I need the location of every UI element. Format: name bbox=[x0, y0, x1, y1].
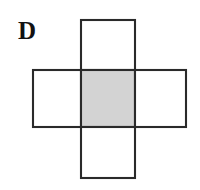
net-cell-center-square-shaded bbox=[81, 70, 135, 127]
cube-net-diagram bbox=[0, 0, 200, 190]
net-cell-left-square bbox=[33, 70, 81, 127]
net-cell-bottom-square bbox=[81, 127, 135, 178]
net-cell-right-square bbox=[135, 70, 186, 127]
net-cell-top-square bbox=[81, 20, 135, 70]
figure-container: D bbox=[0, 0, 200, 190]
